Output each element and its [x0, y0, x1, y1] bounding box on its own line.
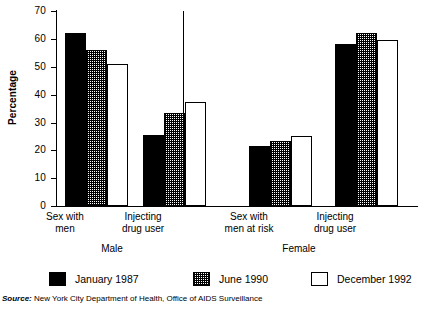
bar-chart-figure: Percentage 70 60 50 40 30 20 10 0 — [0, 0, 429, 309]
legend-item-june-1990: June 1990 — [193, 270, 268, 288]
bar-group-female-injecting-drug-user — [335, 11, 405, 206]
legend-label-december-1992: December 1992 — [337, 273, 412, 285]
y-tick-label-70: 70 — [6, 6, 46, 16]
bar-female-idu-1987 — [335, 44, 356, 206]
bar-group-male-sex-with-men — [65, 11, 135, 206]
legend-item-january-1987: January 1987 — [49, 270, 139, 288]
legend-swatch-white-icon — [311, 272, 328, 286]
bar-male-sex-1992 — [107, 64, 128, 206]
bar-male-idu-1990 — [164, 113, 185, 206]
category-label-female-injecting-drug-user: Injecting drug user — [280, 211, 390, 235]
category-label-line2: drug user — [280, 223, 390, 235]
legend-swatch-checkered-icon — [193, 272, 210, 286]
bar-male-sex-1990 — [86, 50, 107, 206]
bar-female-idu-1990 — [356, 33, 377, 206]
y-tick-label-60: 60 — [6, 34, 46, 44]
y-tick-label-20: 20 — [6, 145, 46, 155]
bar-female-sex-1990 — [270, 141, 291, 206]
y-tick-label-10: 10 — [6, 173, 46, 183]
category-label-line1: Injecting — [88, 211, 198, 223]
bar-male-idu-1992 — [185, 102, 206, 206]
source-note: Source: New York City Department of Heal… — [2, 294, 262, 304]
y-tick-label-40: 40 — [6, 90, 46, 100]
bar-male-idu-1987 — [143, 135, 164, 206]
bar-female-sex-1992 — [291, 136, 312, 206]
y-tick-label-50: 50 — [6, 62, 46, 72]
bar-group-female-sex-with-men-at-risk — [249, 11, 319, 206]
legend-label-june-1990: June 1990 — [219, 273, 268, 285]
chart-legend: January 1987 June 1990 December 1992 — [0, 270, 429, 290]
legend-label-january-1987: January 1987 — [75, 273, 139, 285]
panel-label-male: Male — [52, 243, 172, 255]
plot-area — [57, 11, 417, 206]
source-text: New York City Department of Health, Offi… — [32, 294, 263, 303]
legend-item-december-1992: December 1992 — [311, 270, 412, 288]
x-axis-line — [56, 206, 418, 207]
y-tick-label-0: 0 — [6, 201, 46, 211]
panel-label-female: Female — [239, 243, 359, 255]
bar-female-sex-1987 — [249, 146, 270, 206]
bar-group-male-injecting-drug-user — [143, 11, 213, 206]
category-label-male-injecting-drug-user: Injecting drug user — [88, 211, 198, 235]
category-label-line1: Injecting — [280, 211, 390, 223]
legend-swatch-black-icon — [49, 272, 66, 286]
y-tick-label-30: 30 — [6, 118, 46, 128]
source-prefix: Source: — [2, 294, 32, 303]
category-label-line2: drug user — [88, 223, 198, 235]
bar-female-idu-1992 — [377, 40, 398, 206]
bar-male-sex-1987 — [65, 33, 86, 206]
